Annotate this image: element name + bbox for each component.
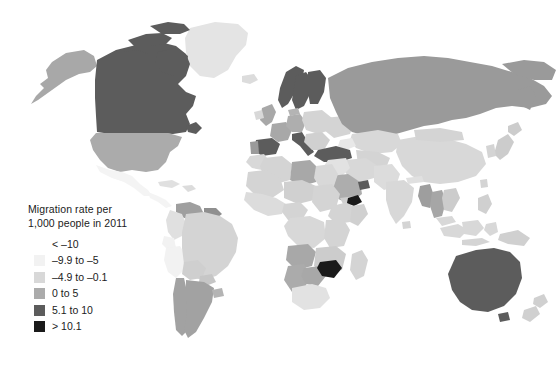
legend-swatch [34,272,45,283]
legend-row: –4.9 to –0.1 [28,269,178,286]
region-sri-lanka [402,221,411,229]
legend-label: > 10.1 [52,321,82,332]
legend-label: 5.1 to 10 [52,305,93,316]
legend-swatch [34,321,45,332]
map-legend: Migration rate per 1,000 people in 2011 … [28,203,178,335]
legend-label: 0 to 5 [52,288,78,299]
legend-swatch [34,255,45,266]
legend-label: –9.9 to –5 [52,255,99,266]
world-migration-map-figure: Migration rate per 1,000 people in 2011 … [0,0,557,368]
legend-title: Migration rate per 1,000 people in 2011 [28,203,178,230]
legend-row: > 10.1 [28,319,178,336]
legend-label: < –10 [52,239,79,250]
legend-swatch [34,305,45,316]
legend-items: < –10–9.9 to –5–4.9 to –0.10 to 55.1 to … [28,236,178,335]
region-taiwan [480,179,488,188]
legend-swatch [34,239,45,250]
legend-row: –9.9 to –5 [28,253,178,270]
legend-row: 5.1 to 10 [28,302,178,319]
region-portugal [250,141,259,154]
legend-label: –4.9 to –0.1 [52,272,107,283]
legend-swatch [34,288,45,299]
legend-row: < –10 [28,236,178,253]
legend-row: 0 to 5 [28,286,178,303]
